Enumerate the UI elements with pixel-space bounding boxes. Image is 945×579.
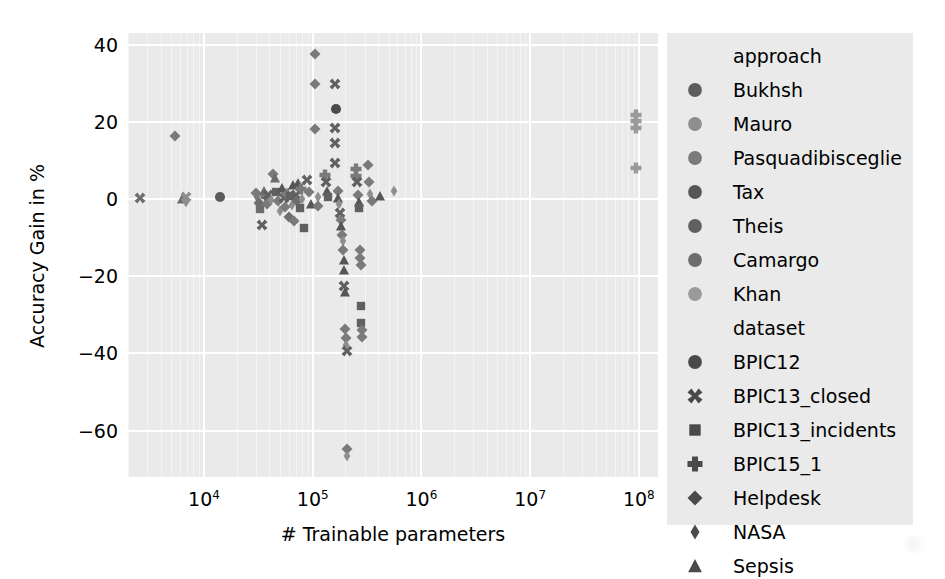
y-tick-label: 0 (106, 188, 118, 210)
legend-item[interactable]: BPIC12 (667, 345, 913, 379)
grid-minor-vertical (582, 33, 583, 477)
grid-minor-vertical (634, 33, 635, 477)
legend-item[interactable]: Camargo (667, 243, 913, 277)
grid-minor-vertical (237, 33, 238, 477)
diamond-marker-icon (688, 491, 703, 506)
circle-marker-icon (688, 83, 703, 98)
data-point (342, 451, 353, 462)
grid-minor-vertical (405, 33, 406, 477)
grid-minor-vertical (161, 33, 162, 477)
data-point (332, 186, 343, 197)
y-axis-ticks: 40200−20−40−60 (40, 0, 118, 579)
legend-item-label: Mauro (733, 113, 792, 135)
legend-group-title-row: dataset (667, 311, 913, 345)
circle-marker-icon (688, 151, 703, 166)
grid-line-vertical (203, 33, 205, 477)
grid-minor-vertical (416, 33, 417, 477)
data-point (256, 220, 267, 231)
legend-item[interactable]: BPIC15_1 (667, 447, 913, 481)
legend-item[interactable]: BPIC13_closed (667, 379, 913, 413)
legend-item-label: Tax (733, 181, 764, 203)
grid-minor-vertical (296, 33, 297, 477)
x-marker-icon (688, 389, 703, 404)
legend-item-label: Theis (733, 215, 784, 237)
data-point (338, 244, 349, 255)
circle-marker-icon (688, 117, 703, 132)
legend-item-label: Pasquadibisceglie (733, 147, 902, 169)
grid-minor-vertical (147, 33, 148, 477)
grid-minor-vertical (389, 33, 390, 477)
legend-item[interactable]: BPIC13_incidents (667, 413, 913, 447)
grid-minor-vertical (497, 33, 498, 477)
grid-minor-vertical (615, 33, 616, 477)
grid-minor-vertical (199, 33, 200, 477)
circle-marker-icon (688, 253, 703, 268)
y-tick-label: 20 (94, 111, 118, 133)
legend-item-label: Bukhsh (733, 79, 803, 101)
grid-line-horizontal (128, 121, 658, 123)
scatter-plot-figure: 40200−20−40−60 Accuracy Gain in % # Trai… (0, 0, 945, 579)
data-point (350, 163, 361, 174)
data-point (320, 169, 331, 180)
legend-item[interactable]: Tax (667, 175, 913, 209)
data-point (354, 203, 365, 214)
legend-item[interactable]: Mauro (667, 107, 913, 141)
legend-item[interactable]: Theis (667, 209, 913, 243)
data-point (295, 183, 306, 194)
plus-filled-marker-icon (688, 457, 703, 472)
grid-minor-vertical (563, 33, 564, 477)
data-point (321, 185, 332, 196)
grid-line-horizontal (128, 198, 658, 200)
grid-minor-vertical (454, 33, 455, 477)
watermark-smudge (905, 536, 927, 556)
grid-minor-vertical (171, 33, 172, 477)
grid-minor-vertical (520, 33, 521, 477)
grid-line-vertical (638, 33, 640, 477)
legend-item-label: BPIC12 (733, 351, 801, 373)
grid-line-horizontal (128, 352, 658, 354)
legend-group-title-row: approach (667, 39, 913, 73)
grid-minor-vertical (378, 33, 379, 477)
legend-item[interactable]: Bukhsh (667, 73, 913, 107)
grid-line-vertical (529, 33, 531, 477)
x-tick-label: 107 (514, 488, 546, 510)
legend-item[interactable]: NASA (667, 515, 913, 549)
grid-minor-vertical (256, 33, 257, 477)
data-point (292, 195, 303, 206)
grid-minor-vertical (606, 33, 607, 477)
triangle-up-marker-icon (688, 559, 703, 574)
plot-area (128, 33, 658, 477)
grid-minor-vertical (308, 33, 309, 477)
data-point (259, 185, 270, 196)
data-point (289, 216, 300, 227)
grid-minor-vertical (193, 33, 194, 477)
data-point (329, 138, 340, 149)
grid-minor-vertical (180, 33, 181, 477)
grid-minor-vertical (622, 33, 623, 477)
legend-item-label: BPIC13_incidents (733, 419, 896, 441)
x-tick-label: 108 (623, 488, 655, 510)
circle-marker-icon (688, 185, 703, 200)
data-point (276, 183, 287, 194)
x-tick-label: 105 (297, 488, 329, 510)
legend-item[interactable]: Sepsis (667, 549, 913, 579)
grid-minor-vertical (187, 33, 188, 477)
square-marker-icon (688, 423, 703, 438)
grid-minor-vertical (365, 33, 366, 477)
data-point (329, 122, 340, 133)
data-point (631, 109, 642, 120)
grid-minor-vertical (628, 33, 629, 477)
grid-line-horizontal (128, 275, 658, 277)
data-point (329, 157, 340, 168)
legend-item-label: Sepsis (733, 555, 794, 577)
legend-item-label: NASA (733, 521, 786, 543)
circle-marker-icon (688, 287, 703, 302)
circle-marker-icon (688, 355, 703, 370)
x-tick-label: 106 (406, 488, 438, 510)
legend-item[interactable]: Helpdesk (667, 481, 913, 515)
legend-item[interactable]: Pasquadibisceglie (667, 141, 913, 175)
legend-group-title: dataset (733, 317, 805, 339)
legend-item-label: Helpdesk (733, 487, 821, 509)
legend-item[interactable]: Khan (667, 277, 913, 311)
data-point (313, 200, 324, 211)
